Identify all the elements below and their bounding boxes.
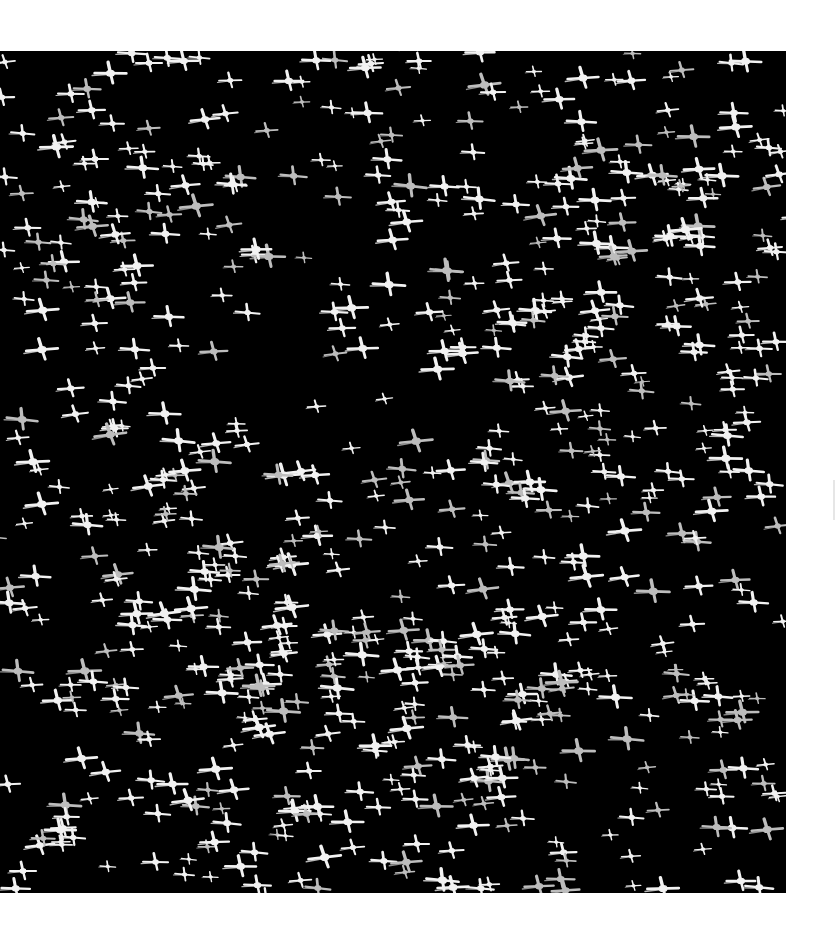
flock-canvas bbox=[0, 51, 786, 893]
page: Flock of flamingos in flight seen from a… bbox=[0, 0, 835, 939]
image-caption: Flock of flamingos in flight seen from a… bbox=[0, 0, 1, 1]
flamingo-flock-photo bbox=[0, 51, 786, 893]
flock-layer bbox=[0, 51, 786, 893]
